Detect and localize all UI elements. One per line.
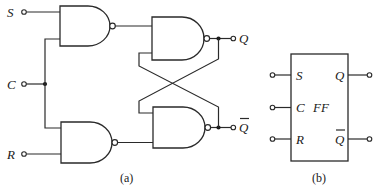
figure-b-ff-block: S C R FF Q Q (b) xyxy=(270,54,372,185)
wire-c-down xyxy=(45,84,61,128)
caption-b: (b) xyxy=(312,171,326,185)
input-r-label: R xyxy=(6,147,15,162)
pin-q-terminal xyxy=(367,73,372,78)
input-s-terminal xyxy=(22,10,27,15)
nand-gate-q xyxy=(152,17,210,60)
output-qbar-label: Q xyxy=(239,120,249,135)
output-q-terminal xyxy=(231,36,236,41)
ff-block-label: FF xyxy=(312,100,330,115)
pin-qbar-label: Q xyxy=(335,132,345,147)
pin-c-label: C xyxy=(296,100,305,115)
pin-q-label: Q xyxy=(335,68,345,83)
output-q-label: Q xyxy=(239,31,249,46)
nand-gate-s xyxy=(60,6,115,46)
pin-r-label: R xyxy=(295,132,304,147)
pin-r-terminal xyxy=(270,137,275,142)
caption-a: (a) xyxy=(120,171,133,185)
nand-gate-r xyxy=(61,122,118,163)
pin-c-terminal xyxy=(270,105,275,110)
output-qbar-terminal xyxy=(231,125,236,130)
input-r-terminal xyxy=(22,152,27,157)
input-s-label: S xyxy=(7,5,14,20)
wire-c-up xyxy=(45,39,60,84)
pin-s-terminal xyxy=(270,73,275,78)
pin-qbar-terminal xyxy=(367,137,372,142)
figure-a-clocked-sr-latch: S C R Q xyxy=(6,5,249,186)
sr-flipflop-diagram: S C R Q xyxy=(0,0,376,189)
input-c-label: C xyxy=(7,77,16,92)
input-c-terminal xyxy=(22,82,27,87)
pin-s-label: S xyxy=(296,68,303,83)
nand-gate-qbar xyxy=(153,107,211,148)
